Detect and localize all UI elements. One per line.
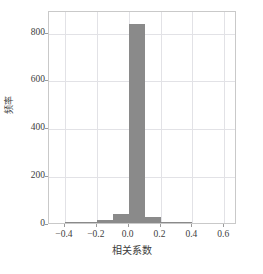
x-axis-title: 相关系数	[0, 245, 263, 257]
y-axis-tick-label: 800	[15, 28, 45, 38]
y-axis-tick-mark	[45, 128, 48, 129]
y-axis-tick-label: 0	[15, 219, 45, 229]
y-axis-tick-mark	[45, 80, 48, 81]
y-axis-tick-label: 600	[15, 75, 45, 85]
plot-area	[48, 11, 236, 224]
gridline-vertical	[97, 12, 98, 223]
x-axis-tick-mark	[128, 224, 129, 227]
histogram-bar	[81, 222, 97, 223]
gridline-vertical	[224, 12, 225, 223]
y-axis-tick-mark	[45, 33, 48, 34]
y-axis-tick-mark	[45, 224, 48, 225]
histogram-bar	[65, 222, 81, 223]
gridline-vertical	[161, 12, 162, 223]
histogram-bar	[176, 222, 192, 223]
x-axis-tick-mark	[96, 224, 97, 227]
x-axis-tick-mark	[160, 224, 161, 227]
y-axis-tick-label: 200	[15, 171, 45, 181]
x-axis-tick-mark	[223, 224, 224, 227]
histogram-bar	[97, 220, 113, 223]
histogram-bar	[113, 214, 129, 223]
histogram-bar	[145, 217, 161, 223]
histogram-bar	[129, 24, 145, 223]
gridline-vertical	[192, 12, 193, 223]
x-axis-tick-label: 0.6	[203, 229, 243, 240]
histogram-figure: 频率 0200400600800 相关系数 −0.4−0.20.00.20.40…	[0, 0, 263, 274]
y-axis-tick-labels: 0200400600800	[12, 0, 45, 274]
gridline-vertical	[65, 12, 66, 223]
histogram-bar	[161, 222, 177, 223]
x-axis-tick-mark	[191, 224, 192, 227]
y-axis-tick-mark	[45, 176, 48, 177]
y-axis-tick-label: 400	[15, 123, 45, 133]
x-axis-tick-mark	[64, 224, 65, 227]
